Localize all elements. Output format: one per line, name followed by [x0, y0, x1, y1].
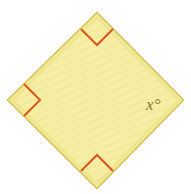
angle-label-x: x° — [145, 95, 161, 114]
diamond-diagram-svg: x° — [0, 0, 191, 194]
geometry-figure: x° — [0, 0, 191, 194]
